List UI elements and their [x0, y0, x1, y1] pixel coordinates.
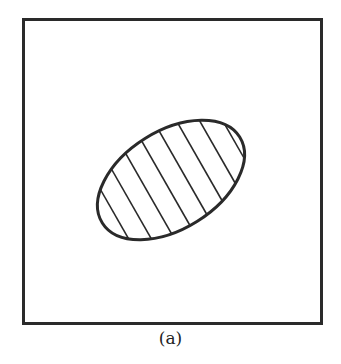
hatched-ellipse: [76, 96, 265, 265]
figure-caption: (a): [0, 328, 341, 348]
hatch-lines: [60, 14, 284, 300]
square-frame: [24, 20, 322, 324]
figure-canvas: [0, 0, 341, 364]
